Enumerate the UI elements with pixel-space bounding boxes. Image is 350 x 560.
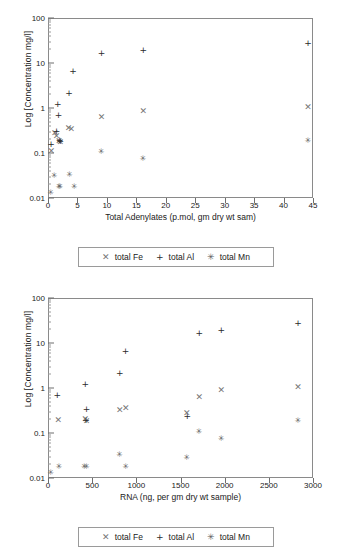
legend-label: total Fe <box>115 252 143 262</box>
data-point-asterisk-marker: ✳ <box>47 469 54 477</box>
legend-entry: ✳total Mn <box>207 252 250 262</box>
data-point-asterisk-marker: ✳ <box>122 463 129 471</box>
data-point-asterisk-marker: ✳ <box>305 137 312 145</box>
y-major-tick <box>48 153 54 154</box>
legend-label: total Fe <box>115 532 143 542</box>
data-point-x-marker: ✕ <box>68 125 76 134</box>
y-minor-tick <box>48 349 51 350</box>
y-minor-tick <box>48 20 51 21</box>
y-tick-label: 1 <box>41 384 45 393</box>
x-tick-label: 5 <box>75 201 79 210</box>
y-minor-tick <box>48 184 51 185</box>
data-point-plus-marker: + <box>217 325 225 334</box>
y-minor-tick <box>48 394 51 395</box>
data-point-plus-marker: + <box>54 99 62 108</box>
data-point-x-marker: ✕ <box>217 385 225 394</box>
y-minor-tick <box>48 464 51 465</box>
y-minor-tick <box>48 397 51 398</box>
data-point-plus-marker: + <box>122 346 130 355</box>
y-minor-tick <box>48 114 51 115</box>
y-minor-tick <box>48 131 51 132</box>
x-tick-label: 25 <box>191 201 200 210</box>
x-tick-label: 1500 <box>172 481 190 490</box>
x-marker: ✕ <box>102 253 110 262</box>
y-tick-label: 100 <box>32 294 45 303</box>
y-tick-label: 100 <box>32 14 45 23</box>
x-tick-label: 10 <box>102 201 111 210</box>
y-minor-tick <box>48 67 51 68</box>
data-point-plus-marker: + <box>183 412 191 421</box>
y-minor-tick <box>48 159 51 160</box>
y-minor-tick <box>48 86 51 87</box>
data-point-plus-marker: + <box>98 49 106 58</box>
data-point-asterisk-marker: ✳ <box>66 171 73 179</box>
y-minor-tick <box>48 345 51 346</box>
y-minor-tick <box>48 76 51 77</box>
x-tick-label: 2000 <box>216 481 234 490</box>
y-minor-tick <box>48 176 51 177</box>
y-minor-tick <box>48 80 51 81</box>
data-point-plus-marker: + <box>65 89 73 98</box>
legend-entry: +total Al <box>156 252 194 262</box>
y-major-tick <box>48 433 54 434</box>
x-tick-label: 30 <box>220 201 229 210</box>
y-minor-tick <box>48 41 51 42</box>
legend-0: ✕total Fe+total Al✳total Mn <box>78 247 274 267</box>
data-point-asterisk-marker: ✳ <box>295 417 302 425</box>
y-minor-tick <box>48 329 51 330</box>
data-point-x-marker: ✕ <box>53 132 61 141</box>
y-minor-tick <box>48 35 51 36</box>
x-tick-label: 20 <box>161 201 170 210</box>
x-tick-label: 3000 <box>304 481 322 490</box>
y-minor-tick <box>48 392 51 393</box>
legend-label: total Al <box>169 532 195 542</box>
y-minor-tick <box>48 112 51 113</box>
data-point-plus-marker: + <box>55 111 63 120</box>
data-point-asterisk-marker: ✳ <box>56 463 63 471</box>
chart-figure-rna: Log [Concentration mg/l] 0.010.1110100 ✕… <box>0 280 350 560</box>
y-major-tick <box>48 18 54 19</box>
data-point-x-marker: ✕ <box>294 382 302 391</box>
plot-block-1: Log [Concentration mg/l] 0.010.1110100 ✕… <box>0 280 350 512</box>
data-point-x-marker: ✕ <box>98 113 106 122</box>
x-marker: ✕ <box>102 533 110 542</box>
y-minor-tick <box>48 65 51 66</box>
y-tick-label: 10 <box>36 59 45 68</box>
y-tick-label: 10 <box>36 339 45 348</box>
y-minor-tick <box>48 300 51 301</box>
y-minor-tick <box>48 405 51 406</box>
legend-entry: +total Al <box>156 532 194 542</box>
y-minor-tick <box>48 435 51 436</box>
data-point-x-marker: ✕ <box>195 392 203 401</box>
data-point-x-marker: ✕ <box>183 408 191 417</box>
data-point-x-marker: ✕ <box>65 124 73 133</box>
y-minor-tick <box>48 157 51 158</box>
y-major-tick <box>48 298 54 299</box>
y-minor-tick <box>48 321 51 322</box>
data-point-x-marker: ✕ <box>51 128 59 137</box>
y-minor-tick <box>48 72 51 73</box>
plus-marker: + <box>156 253 164 262</box>
data-point-asterisk-marker: ✳ <box>98 148 105 156</box>
y-minor-tick <box>48 94 51 95</box>
y-minor-tick <box>48 307 51 308</box>
data-point-plus-marker: + <box>69 66 77 75</box>
y-minor-tick <box>48 401 51 402</box>
y-minor-tick <box>48 411 51 412</box>
y-minor-tick <box>48 139 51 140</box>
data-point-plus-marker: + <box>116 369 124 378</box>
data-point-x-marker: ✕ <box>83 417 91 426</box>
data-point-asterisk-marker: ✳ <box>196 428 203 436</box>
legend-1: ✕total Fe+total Al✳total Mn <box>78 527 274 547</box>
y-major-tick <box>48 108 54 109</box>
x-tick-label: 2500 <box>260 481 278 490</box>
data-point-plus-marker: + <box>47 140 55 149</box>
y-minor-tick <box>48 356 51 357</box>
x-axis-title-1: RNA (ng, per gm dry wt sample) <box>48 492 313 502</box>
data-point-asterisk-marker: ✳ <box>71 183 78 191</box>
y-minor-tick <box>48 24 51 25</box>
data-point-plus-marker: + <box>81 379 89 388</box>
data-point-plus-marker: + <box>83 404 91 413</box>
y-minor-tick <box>48 121 51 122</box>
data-point-x-marker: ✕ <box>304 103 312 112</box>
